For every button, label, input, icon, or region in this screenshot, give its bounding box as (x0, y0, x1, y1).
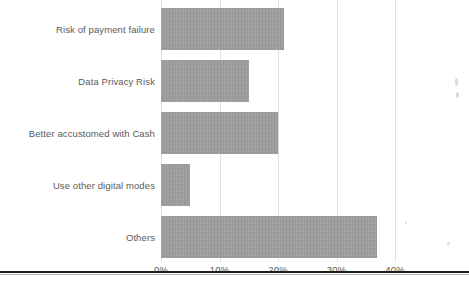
bar-row (161, 216, 377, 258)
bar-others (161, 216, 377, 258)
bar-better-accustomed-with-cash (161, 112, 278, 154)
scan-speck (405, 222, 407, 224)
bar-data-privacy-risk (161, 60, 249, 102)
bar-chart: Risk of payment failure Data Privacy Ris… (0, 0, 469, 288)
category-label-2: Better accustomed with Cash (0, 128, 155, 139)
page-divider-rule (0, 271, 469, 273)
bar-row (161, 112, 278, 154)
bar-risk-of-payment-failure (161, 8, 284, 50)
category-label-0: Risk of payment failure (0, 24, 155, 35)
bar-row (161, 8, 284, 50)
category-label-4: Others (0, 232, 155, 243)
bar-use-other-digital-modes (161, 164, 190, 206)
category-label-3: Use other digital modes (0, 180, 155, 191)
bar-row (161, 60, 249, 102)
bar-series (161, 0, 469, 262)
category-label-1: Data Privacy Risk (0, 76, 155, 87)
bar-row (161, 164, 190, 206)
category-axis: Risk of payment failure Data Privacy Ris… (0, 0, 155, 262)
page-divider-shadow (0, 274, 469, 275)
scan-speck (455, 78, 458, 86)
scan-speck (456, 92, 459, 98)
scan-speck (447, 242, 450, 245)
